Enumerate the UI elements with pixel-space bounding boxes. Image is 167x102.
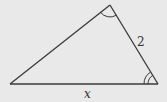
label-base: x [84, 87, 91, 101]
side-right [110, 5, 158, 84]
angle-mark-top [101, 12, 117, 17]
triangle-diagram: 2 x [0, 0, 167, 102]
label-right-side: 2 [137, 35, 145, 49]
angle-mark-bottom-right-inner [148, 75, 153, 84]
side-left [10, 5, 110, 84]
